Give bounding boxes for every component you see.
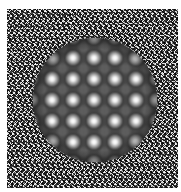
circular-grating-patch [33,38,157,162]
patch-vignette [33,38,157,162]
